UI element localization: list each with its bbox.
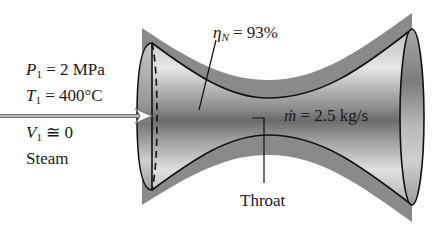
fluid-label: Steam (26, 150, 69, 167)
efficiency-label: ηN = 93% (213, 24, 278, 43)
outlet-opening (400, 29, 424, 205)
mass-flow-label: ṁ = 2.5 kg/s (284, 107, 368, 124)
inlet-pressure-label: P1 = 2 MPa (26, 61, 105, 80)
inlet-velocity-label: V1 ≅ 0 (26, 124, 73, 143)
inlet-temperature-label: T1 = 400°C (26, 87, 103, 106)
flow-arrow (0, 109, 152, 123)
throat-label: Throat (240, 192, 285, 209)
